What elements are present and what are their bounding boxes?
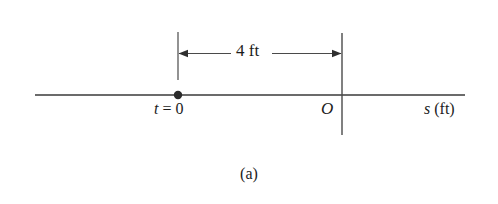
dimension-arrowhead-left	[179, 50, 189, 57]
axis-unit: (ft)	[434, 100, 454, 117]
axis-variable-label: s (ft)	[424, 101, 455, 117]
particle-marker-dot	[174, 91, 182, 99]
time-zero-label: t = 0	[154, 101, 183, 117]
dimension-value: 4	[236, 41, 245, 60]
dimension-label: 4 ft	[231, 42, 264, 59]
figure-diagram-a: 4 ft t = 0 O s (ft) (a)	[0, 0, 498, 204]
time-value: 0	[175, 100, 183, 117]
figure-caption: (a)	[0, 166, 498, 182]
dimension-unit: ft	[249, 41, 259, 60]
origin-label: O	[321, 100, 333, 117]
dimension-arrowhead-right	[332, 50, 342, 57]
